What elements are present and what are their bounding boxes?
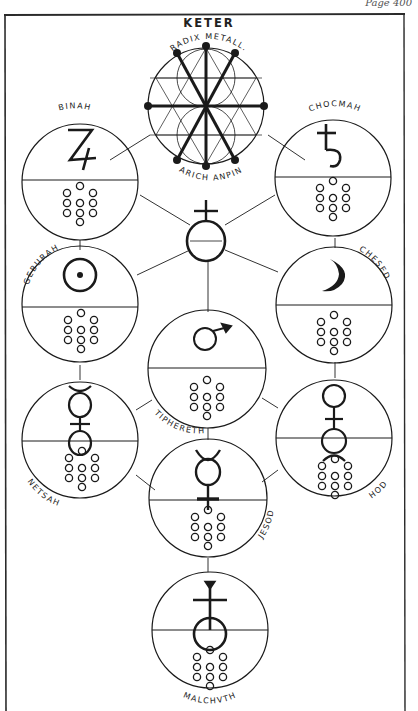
- geburah-label: GEBURAH: [22, 243, 61, 286]
- sefira-hod: HOD: [276, 380, 392, 500]
- dots-icon: [317, 311, 350, 354]
- sefira-malchuth: MALCHVTH: [152, 572, 268, 705]
- malchuth-label: MALCHVTH: [182, 690, 238, 705]
- hub-orb-symbol: [187, 200, 225, 261]
- dots-icon: [193, 646, 226, 689]
- moon-icon: [322, 259, 345, 291]
- tiphereth-label: TIPHERETH: [152, 408, 206, 436]
- sefira-binah: BINAH: [22, 101, 138, 240]
- venus-icon: [69, 386, 91, 455]
- sefira-chesed: CHESED: [276, 244, 392, 363]
- jupiter-icon: [68, 130, 96, 170]
- saturn-icon: [317, 124, 340, 166]
- antimony-icon: [193, 582, 227, 650]
- venus-icon: [322, 385, 346, 461]
- sefira-tiphereth: TIPHERETH: [148, 310, 266, 436]
- mars-icon: [194, 324, 231, 350]
- mercury-icon: [196, 450, 220, 510]
- keter-bottom-inscription: ARICH ANPIN: [178, 165, 244, 182]
- sefira-netsah: NETSAH: [22, 382, 138, 508]
- hod-label: HOD: [367, 479, 389, 501]
- dots-icon: [318, 455, 351, 498]
- sefirot-tree-diagram: KETER RADIX METALL. ARICH ANPIN: [0, 0, 418, 711]
- jesod-label: JESOD: [256, 508, 276, 541]
- binah-label: BINAH: [57, 101, 92, 112]
- dots-icon: [64, 309, 97, 352]
- dots-icon: [190, 376, 223, 419]
- dots-icon: [316, 177, 349, 220]
- dots-icon: [191, 506, 224, 549]
- sefira-jesod: JESOD: [149, 439, 276, 557]
- keter-title: KETER: [183, 16, 234, 30]
- chocmah-label: CHOCMAH: [307, 99, 362, 113]
- sefira-keter: KETER RADIX METALL. ARICH ANPIN: [144, 16, 268, 182]
- sefira-geburah: GEBURAH: [22, 243, 138, 362]
- dots-icon: [63, 182, 96, 225]
- sefira-chocmah: CHOCMAH: [275, 99, 391, 236]
- chesed-label: CHESED: [358, 244, 393, 281]
